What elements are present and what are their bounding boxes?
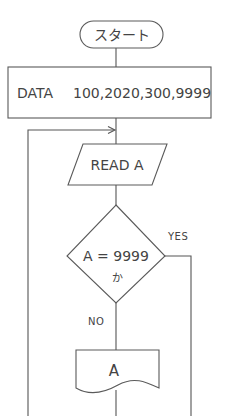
no-label: NO — [88, 316, 104, 327]
decision-condition: A = 9999 — [83, 248, 149, 264]
start-terminal: スタート — [80, 21, 163, 48]
output-document: A — [76, 350, 159, 393]
yes-label: YES — [167, 231, 188, 242]
read-label: READ A — [91, 157, 144, 173]
output-label: A — [109, 362, 120, 380]
read-input-box: READ A — [68, 144, 167, 185]
data-values: 100,2020,300,9999 — [73, 85, 211, 101]
decision-diamond: A = 9999 か — [67, 205, 165, 303]
flowchart: スタート DATA 100,2020,300,9999 READ A A = 9… — [0, 0, 233, 416]
data-keyword: DATA — [17, 85, 53, 101]
yes-branch-line — [165, 256, 191, 416]
start-label: スタート — [94, 27, 150, 43]
decision-suffix: か — [112, 272, 123, 285]
data-process-box: DATA 100,2020,300,9999 — [8, 67, 211, 118]
